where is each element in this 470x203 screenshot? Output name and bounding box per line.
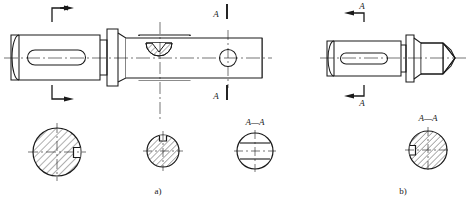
section-view-label-AA-a: A—A <box>245 117 266 127</box>
figure-caption-b: b) <box>399 186 407 196</box>
section-arrow-bottom-b-head <box>344 93 354 98</box>
section-label-A-bottom-b: A <box>358 98 365 108</box>
technical-drawing-sheet: A A <box>0 0 470 203</box>
keyway-slot-a <box>28 50 86 65</box>
section-circle-keyway-left <box>28 123 86 181</box>
figure-b-group: A A <box>320 1 466 196</box>
section-arrow-bottom-head <box>64 96 74 101</box>
section-circle-hole-AA <box>234 130 276 172</box>
section-label-A-top-b: A <box>358 1 365 11</box>
figure-caption-a: a) <box>155 186 162 196</box>
shaft-body-b-clean <box>422 44 443 73</box>
section-arrow-top-b-head <box>344 10 354 15</box>
keyway-slot-b <box>341 53 388 64</box>
section-label-A-top: A <box>212 9 219 19</box>
drawing-canvas: A A <box>0 0 470 203</box>
section-label-A-bottom: A <box>212 91 219 101</box>
section-view-label-AA-b: A—A <box>418 113 439 123</box>
section-arrow-bottom-unlabeled <box>52 85 66 99</box>
section-circle-woodruff-middle <box>143 131 183 171</box>
figure-a-group: A A <box>4 4 276 196</box>
section-arrow-top-head <box>64 5 74 10</box>
section-circle-keyway-AA-b <box>405 127 451 173</box>
